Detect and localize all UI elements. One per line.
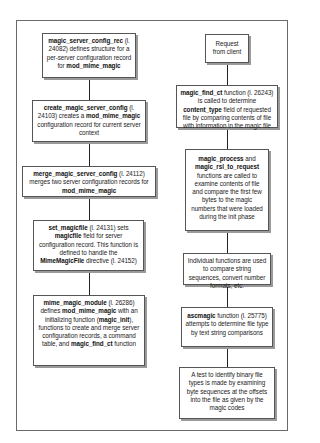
function-name: mod_mime_magic [62,187,116,194]
function-name: mime_magic_module [43,299,106,306]
function-name: mod_mime_magic [86,112,140,119]
connector-line [89,142,90,166]
box-create-magic-server-config: create_magic_server_config (l. 24103) cr… [32,100,146,142]
box-text: functions are called to examine contents… [191,172,263,220]
box-text: A test to identify binary file types is … [187,371,267,411]
function-name: MimeMagicFile [40,257,84,264]
box-merge-magic-server-config: merge_magic_server_config (l. 24112) mer… [22,166,156,197]
function-name: magic_find_ct [71,340,113,347]
box-magic-process: magic_process and magic_rsl_to_request f… [185,149,269,231]
connector-line [89,197,90,220]
function-name: magic_find_ct [181,89,223,96]
box-text: Individual functions are used to compare… [188,257,266,289]
box-individual-functions: Individual functions are used to compare… [183,253,271,285]
function-name: magic_server_config_rec [48,37,123,44]
box-text: directive (l. 24152) [84,257,137,264]
function-name: content_type [183,106,222,113]
connector-line [227,128,228,149]
function-name: set_magicfile [48,224,87,231]
box-text: configuration record for current server … [37,121,140,136]
box-magic-server-config-rec: magic_server_config_rec (l. 24082) defin… [42,33,136,78]
connector-line [227,347,228,367]
connector-line [227,231,228,253]
connector-line [227,63,228,85]
box-text: (l. 24131) sets [88,224,129,231]
connector-line [89,271,90,295]
box-text: Request from client [213,40,242,55]
box-magic-find-ct: magic_find_ct function (l. 26243) is cal… [176,85,278,128]
function-name: mod_mime_magic [66,62,120,69]
function-name: create_magic_server_config [44,104,128,111]
box-mime-magic-module: mime_magic_module (l. 26286) defines mod… [33,295,145,366]
function-name: merge_magic_server_config [33,170,117,177]
connector-line [89,78,90,101]
box-text: function [113,340,136,347]
function-name: ascmagic [187,312,215,319]
box-set-magicfile: set_magicfile (l. 24131) sets magicfile … [33,220,144,271]
function-name: magic_rsl_to_request [195,163,259,170]
function-name: magic_process [198,155,243,162]
function-name: magic_init [99,316,130,323]
function-name: mod_mime_magic [62,307,116,314]
function-name: magicfile [55,232,82,239]
box-binary-file-test: A test to identify binary file types is … [179,367,275,419]
box-text: and [244,155,256,162]
box-ascmagic: ascmagic function (l. 25775) attempts to… [181,307,273,347]
box-request-from-client: Request from client [205,34,249,63]
